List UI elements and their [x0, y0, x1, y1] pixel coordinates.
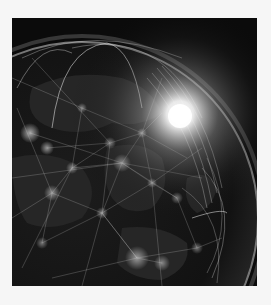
- sun-flare: [12, 18, 257, 286]
- globe-illustration: [12, 18, 257, 286]
- earth-network-photo: [12, 18, 257, 286]
